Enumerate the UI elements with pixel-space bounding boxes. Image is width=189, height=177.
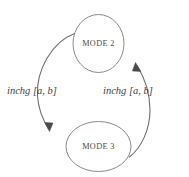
node-mode3-label: MODE 3 (82, 142, 115, 151)
node-mode2[interactable]: MODE 2 (73, 15, 124, 73)
state-transition-diagram: MODE 2 MODE 3 inchg [a, b] inchg [a, b] (0, 0, 189, 177)
edge-mode2-to-mode3-label: inchg [a, b] (7, 86, 57, 97)
node-mode3[interactable]: MODE 3 (66, 122, 131, 172)
edge-mode3-to-mode2-arrowhead (132, 63, 140, 72)
edge-mode2-to-mode3-arrowhead (45, 122, 53, 131)
edge-mode2-to-mode3 (37, 34, 74, 132)
node-mode2-label: MODE 2 (82, 39, 115, 48)
edge-mode3-to-mode2 (130, 63, 151, 158)
edge-mode3-to-mode2-path (130, 66, 151, 158)
edge-mode2-to-mode3-path (37, 34, 74, 129)
edge-mode3-to-mode2-label: inchg [a, b] (103, 86, 153, 97)
